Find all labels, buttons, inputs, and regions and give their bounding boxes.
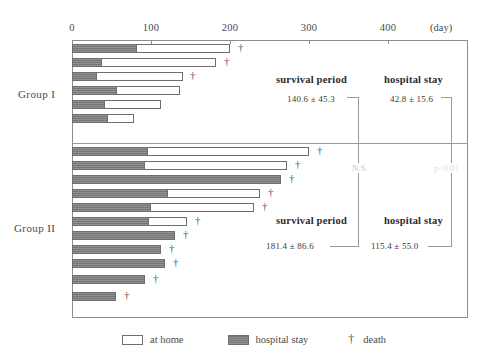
bar-segment-at-home (167, 189, 260, 198)
death-marker: † (183, 230, 189, 239)
bar-segment-at-home (116, 86, 180, 95)
hospital-stay-swatch-icon (228, 335, 249, 345)
bar-segment-hospital-stay (72, 100, 105, 109)
death-marker: † (295, 160, 301, 169)
group2-hospital-stay-title: hospital stay (384, 215, 443, 226)
bar-segment-at-home (144, 161, 287, 170)
bar-segment-hospital-stay (72, 231, 175, 240)
bar-segment-hospital-stay (72, 58, 102, 67)
death-marker: † (153, 274, 159, 283)
death-marker: † (268, 188, 274, 197)
legend-label-death: death (363, 334, 386, 345)
group2-survival-period-title: survival period (276, 215, 347, 226)
death-marker: † (238, 43, 244, 52)
death-marker: † (262, 202, 268, 211)
death-marker: † (169, 244, 175, 253)
bar-segment-at-home (96, 72, 183, 81)
survival-bracket-bottom-arm (330, 246, 359, 247)
hospital-significance-label: p<0.01 (433, 163, 460, 173)
group-label-1: Group I (18, 88, 55, 100)
group1-survival-period-value: 140.6 ± 45.3 (287, 94, 335, 104)
death-marker: † (190, 71, 196, 80)
death-marker: † (289, 174, 295, 183)
group1-hospital-stay-title: hospital stay (384, 74, 443, 85)
bar-segment-hospital-stay (72, 275, 145, 284)
death-marker: † (224, 57, 230, 66)
group-label-2: Group II (14, 222, 55, 234)
bar-segment-at-home (136, 44, 230, 53)
bar-segment-hospital-stay (72, 292, 116, 301)
death-marker: † (317, 146, 323, 155)
bar-segment-hospital-stay (72, 114, 108, 123)
group1-hospital-stay-value: 42.8 ± 15.6 (390, 94, 433, 104)
bar-segment-hospital-stay (72, 245, 161, 254)
bar-segment-hospital-stay (72, 147, 148, 156)
legend-item-hospital-stay: hospital stay (228, 334, 309, 345)
bar-segment-hospital-stay (72, 203, 151, 212)
x-axis-unit-label: (day) (430, 22, 452, 33)
bar-segment-at-home (104, 100, 161, 109)
bar-segment-hospital-stay (72, 72, 97, 81)
chart-canvas: 0 100 200 300 400 (day) Group I Group II… (0, 0, 493, 354)
death-marker: † (195, 216, 201, 225)
bar-segment-at-home (147, 147, 309, 156)
group2-survival-period-value: 181.4 ± 86.6 (266, 241, 314, 251)
chart-legend: at home hospital stay † death (122, 332, 386, 347)
bar-segment-hospital-stay (72, 175, 281, 184)
bar-segment-at-home (101, 58, 216, 67)
bar-segment-hospital-stay (72, 259, 165, 268)
death-dagger-icon: † (348, 332, 354, 347)
at-home-swatch-icon (122, 335, 143, 345)
bar-segment-hospital-stay (72, 217, 149, 226)
bar-segment-at-home (107, 114, 134, 123)
death-marker: † (173, 258, 179, 267)
group-divider (72, 143, 468, 144)
x-axis-label-0: 0 (62, 22, 82, 33)
legend-label-hospital-stay: hospital stay (256, 334, 309, 345)
bar-segment-at-home (148, 217, 187, 226)
group1-survival-period-title: survival period (276, 74, 347, 85)
x-axis-label-200: 200 (215, 22, 245, 33)
death-marker: † (124, 291, 130, 300)
bar-segment-hospital-stay (72, 44, 137, 53)
x-axis-label-300: 300 (294, 22, 324, 33)
bar-segment-hospital-stay (72, 161, 145, 170)
bar-segment-hospital-stay (72, 86, 117, 95)
group2-hospital-stay-value: 115.4 ± 55.0 (371, 241, 419, 251)
x-axis-label-400: 400 (373, 22, 403, 33)
legend-label-at-home: at home (150, 334, 184, 345)
bar-segment-hospital-stay (72, 189, 168, 198)
legend-item-at-home: at home (122, 334, 184, 345)
hospital-bracket-bottom-arm (428, 246, 452, 247)
bar-segment-at-home (150, 203, 254, 212)
survival-significance-label: N.S. (351, 163, 369, 173)
x-axis-label-100: 100 (136, 22, 166, 33)
legend-item-death: † death (348, 332, 386, 347)
